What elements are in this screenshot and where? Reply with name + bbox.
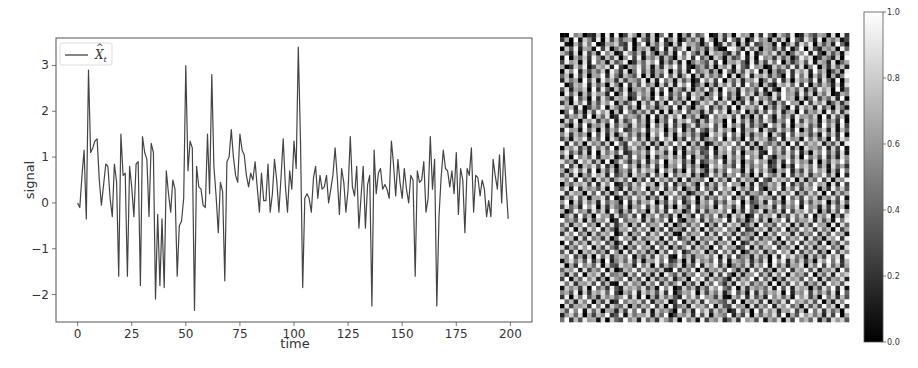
heatmap-cell — [565, 205, 570, 210]
heatmap-cell — [759, 263, 764, 268]
heatmap-cell — [705, 60, 710, 65]
heatmap-cell — [596, 268, 601, 273]
heatmap-cell — [574, 209, 579, 214]
heatmap-cell — [641, 155, 646, 160]
heatmap-cell — [646, 173, 651, 178]
heatmap-cell — [799, 56, 804, 61]
heatmap-cell — [560, 132, 565, 137]
heatmap-cell — [619, 209, 624, 214]
heatmap-cell — [763, 218, 768, 223]
heatmap-cell — [799, 205, 804, 210]
heatmap-cell — [637, 47, 642, 52]
heatmap-cell — [759, 146, 764, 151]
heatmap-cell — [574, 128, 579, 133]
heatmap-cell — [610, 87, 615, 92]
heatmap-cell — [614, 132, 619, 137]
heatmap-cell — [723, 65, 728, 70]
heatmap-cell — [655, 159, 660, 164]
heatmap-cell — [691, 96, 696, 101]
heatmap-cell — [691, 241, 696, 246]
heatmap-cell — [736, 214, 741, 219]
heatmap-cell — [808, 236, 813, 241]
heatmap-cell — [623, 290, 628, 295]
heatmap-cell — [623, 200, 628, 205]
heatmap-cell — [637, 87, 642, 92]
heatmap-cell — [822, 119, 827, 124]
heatmap-cell — [610, 114, 615, 119]
heatmap-cell — [677, 105, 682, 110]
heatmap-cell — [623, 78, 628, 83]
heatmap-cell — [754, 42, 759, 47]
heatmap-cell — [673, 33, 678, 38]
heatmap-cell — [772, 245, 777, 250]
heatmap-cell — [790, 263, 795, 268]
heatmap-cell — [641, 65, 646, 70]
heatmap-cell — [840, 110, 845, 115]
heatmap-cell — [691, 56, 696, 61]
heatmap-cell — [835, 150, 840, 155]
heatmap-cell — [659, 78, 664, 83]
heatmap-cell — [745, 60, 750, 65]
heatmap-cell — [619, 47, 624, 52]
heatmap-cell — [840, 42, 845, 47]
heatmap-cell — [808, 205, 813, 210]
heatmap-cell — [677, 286, 682, 291]
colorbar-tick-label: 1.0 — [887, 8, 900, 17]
heatmap-cell — [686, 205, 691, 210]
heatmap-cell — [804, 277, 809, 282]
heatmap-cell — [808, 119, 813, 124]
heatmap-cell — [637, 290, 642, 295]
heatmap-cell — [574, 150, 579, 155]
heatmap-cell — [628, 87, 633, 92]
heatmap-cell — [745, 146, 750, 151]
heatmap-cell — [709, 304, 714, 309]
heatmap-cell — [745, 263, 750, 268]
heatmap-cell — [768, 78, 773, 83]
heatmap-cell — [574, 164, 579, 169]
heatmap-cell — [619, 286, 624, 291]
heatmap-cell — [759, 182, 764, 187]
heatmap-cell — [560, 236, 565, 241]
heatmap-cell — [745, 250, 750, 255]
heatmap-cell — [709, 317, 714, 322]
heatmap-cell — [840, 101, 845, 106]
heatmap-cell — [822, 51, 827, 56]
heatmap-cell — [781, 47, 786, 52]
heatmap-cell — [592, 56, 597, 61]
heatmap-cell — [574, 132, 579, 137]
heatmap-cell — [777, 290, 782, 295]
heatmap-cell — [628, 47, 633, 52]
heatmap-cell — [718, 259, 723, 264]
heatmap-cell — [835, 155, 840, 160]
heatmap-cell — [799, 60, 804, 65]
heatmap-cell — [768, 164, 773, 169]
heatmap-cell — [700, 178, 705, 183]
heatmap-cell — [650, 209, 655, 214]
heatmap-cell — [745, 164, 750, 169]
heatmap-cell — [763, 96, 768, 101]
heatmap-cell — [786, 259, 791, 264]
heatmap-cell — [705, 173, 710, 178]
heatmap-cell — [799, 168, 804, 173]
heatmap-cell — [844, 227, 849, 232]
heatmap-cell — [578, 263, 583, 268]
heatmap-cell — [596, 74, 601, 79]
heatmap-cell — [772, 223, 777, 228]
heatmap-cell — [655, 132, 660, 137]
heatmap-cell — [578, 137, 583, 142]
heatmap-cell — [668, 191, 673, 196]
heatmap-cell — [614, 191, 619, 196]
heatmap-cell — [822, 114, 827, 119]
heatmap-cell — [790, 33, 795, 38]
heatmap-cell — [844, 308, 849, 313]
heatmap-cell — [799, 196, 804, 201]
heatmap-cell — [727, 223, 732, 228]
heatmap-cell — [754, 313, 759, 318]
heatmap-cell — [610, 47, 615, 52]
heatmap-cell — [578, 214, 583, 219]
heatmap-cell — [759, 141, 764, 146]
heatmap-cell — [614, 259, 619, 264]
heatmap-cell — [668, 101, 673, 106]
heatmap-cell — [587, 150, 592, 155]
heatmap-cell — [781, 137, 786, 142]
